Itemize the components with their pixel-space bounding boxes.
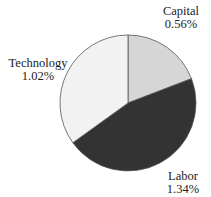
capital-value: 0.56% [155,18,207,31]
capital-label: Capital 0.56% [155,5,207,31]
labor-label: Labor 1.34% [158,170,208,196]
pie-slices [60,35,196,171]
technology-label: Technology 1.02% [2,57,74,83]
labor-value: 1.34% [158,183,208,196]
technology-value: 1.02% [2,70,74,83]
